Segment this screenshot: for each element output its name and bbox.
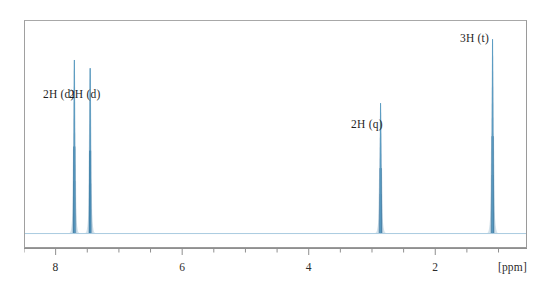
axis-unit-label: [ppm] [498,261,527,273]
plot-frame [24,20,527,248]
spectrum-trace [25,21,527,248]
x-axis: 8642[ppm] [24,248,527,282]
axis-tick-label-4: 4 [306,261,312,273]
axis-tick-label-2: 2 [432,261,438,273]
peak-label-aromatic-doublet-upfield: 2H (d) [69,88,101,100]
nmr-spectrum-figure: 8642[ppm] 2H (d)2H (d)2H (q)3H (t) [0,0,551,282]
axis-tick-label-8: 8 [53,261,59,273]
axis-ticks [24,248,527,262]
peak-label-methylene-quartet: 2H (q) [351,118,383,130]
peak-label-methyl-triplet: 3H (t) [460,32,489,44]
axis-tick-label-6: 6 [179,261,185,273]
